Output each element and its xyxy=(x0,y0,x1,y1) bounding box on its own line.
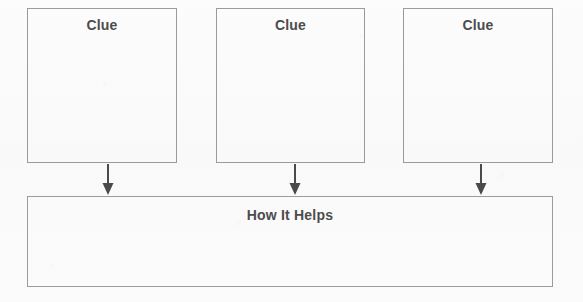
clue-box-1-label: Clue xyxy=(28,17,176,33)
arrow-down-icon-1 xyxy=(101,164,115,196)
arrow-down-icon-3 xyxy=(474,164,488,196)
arrow-down-icon-2 xyxy=(288,164,302,196)
clue-box-3-label: Clue xyxy=(404,17,552,33)
worksheet-diagram: Clue Clue Clue How It Helps xyxy=(0,0,583,302)
how-it-helps-box[interactable]: How It Helps xyxy=(27,196,553,287)
how-it-helps-label: How It Helps xyxy=(28,207,552,223)
clue-box-1[interactable]: Clue xyxy=(27,8,177,163)
clue-box-2[interactable]: Clue xyxy=(216,8,365,163)
clue-box-2-label: Clue xyxy=(217,17,364,33)
clue-box-3[interactable]: Clue xyxy=(403,8,553,163)
